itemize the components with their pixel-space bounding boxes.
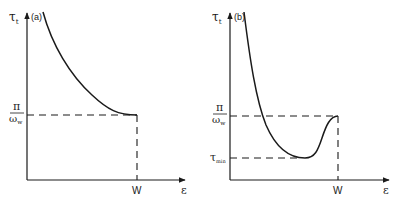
x-tick-w-b: W (333, 185, 343, 196)
level-denominator-b: ωw (212, 114, 226, 126)
x-tick-w-a: W (132, 185, 142, 196)
level-label-b: π ωw (212, 101, 227, 126)
panel-label-b: (b) (234, 12, 245, 22)
panel-label-a: (a) (31, 12, 42, 22)
figure-canvas: τt (a) π ωw W ε τt (b) (0, 0, 403, 202)
tau-curve-b (244, 12, 338, 158)
level-numerator-b: π (216, 101, 223, 114)
x-axis-label-a: ε (181, 184, 187, 197)
level-denominator-a: ωw (9, 113, 23, 125)
y-axis-label-b: τt (212, 10, 222, 26)
panel-a: τt (a) π ωw W ε (9, 10, 187, 197)
tau-curve-a (43, 12, 137, 115)
y-axis-label-a: τt (9, 10, 19, 26)
level-numerator-a: π (13, 100, 20, 113)
level-label-a: π ωw (9, 100, 24, 125)
panel-b: τt (b) π ωw τmin W ε (210, 10, 389, 197)
min-label-b: τmin (210, 151, 226, 164)
x-axis-label-b: ε (383, 184, 389, 197)
